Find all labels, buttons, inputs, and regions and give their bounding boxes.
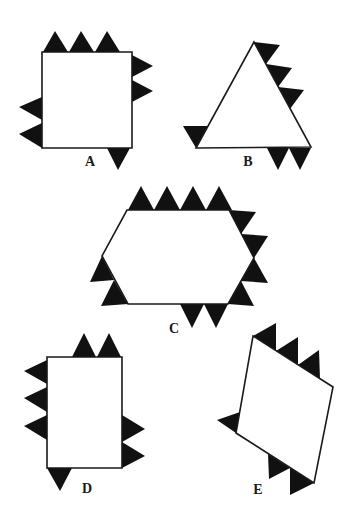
- shape-d-label: D: [82, 481, 92, 496]
- shape-c-label: C: [169, 321, 179, 336]
- triangle-tooth: [122, 415, 145, 442]
- triangle-tooth: [154, 186, 180, 210]
- triangle-tooth: [206, 186, 232, 210]
- triangle-tooth: [72, 333, 96, 357]
- triangle-tooth: [24, 415, 47, 440]
- square-outline: [42, 52, 132, 148]
- triangle-tooth: [97, 333, 121, 357]
- triangle-tooth: [267, 148, 289, 170]
- triangle-tooth: [180, 304, 204, 328]
- shape-e-parallelogram: [217, 323, 333, 495]
- rectangle-outline: [47, 357, 122, 468]
- shape-a-label: A: [85, 154, 96, 169]
- shape-b-label: B: [243, 154, 252, 169]
- triangle-tooth: [132, 80, 153, 102]
- shape-c-hexagon: [90, 186, 268, 328]
- triangle-tooth: [24, 360, 47, 384]
- shape-a-square: [19, 31, 153, 170]
- triangle-tooth: [107, 148, 130, 170]
- triangle-tooth: [204, 304, 228, 328]
- triangle-tooth: [69, 31, 94, 52]
- triangle-tooth: [180, 186, 206, 210]
- triangle-tooth: [132, 55, 153, 77]
- hexagon-outline: [102, 210, 254, 304]
- triangle-tooth: [19, 123, 42, 148]
- triangle-tooth: [19, 97, 42, 120]
- shape-d-rectangle: [24, 333, 145, 491]
- figure-canvas: A B C D E: [0, 0, 354, 527]
- triangle-tooth: [128, 186, 154, 210]
- triangle-tooth: [47, 468, 72, 491]
- triangle-tooth: [24, 387, 47, 412]
- triangle-tooth: [122, 442, 145, 468]
- triangle-tooth: [43, 31, 68, 52]
- shape-b-triangle: [183, 42, 311, 170]
- triangle-tooth: [95, 31, 120, 52]
- triangle-tooth: [289, 148, 311, 170]
- shape-e-label: E: [253, 482, 262, 497]
